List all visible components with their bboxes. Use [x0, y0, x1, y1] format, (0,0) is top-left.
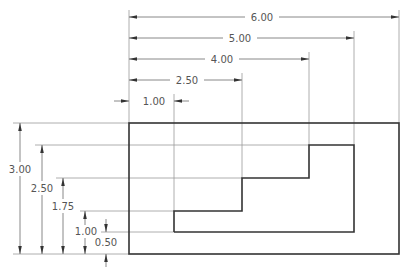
technical-drawing: 6.00 5.00 4.00 2.50 1.00 3.00 2.50 1.75 … — [0, 0, 406, 269]
dim-label-6-00: 6.00 — [251, 12, 273, 23]
dim-label-1-00-v: 1.00 — [75, 226, 97, 237]
dim-label-2-50-v: 2.50 — [31, 183, 53, 194]
horizontal-extension-lines — [129, 10, 399, 211]
dim-label-2-50: 2.50 — [176, 75, 198, 86]
dim-label-3-00: 3.00 — [9, 164, 31, 175]
dim-label-1-75: 1.75 — [52, 201, 74, 212]
outer-rectangle — [129, 123, 399, 254]
horizontal-dimensions: 6.00 5.00 4.00 2.50 1.00 — [114, 10, 399, 107]
dim-label-1-00: 1.00 — [143, 96, 165, 107]
dim-label-0-50: 0.50 — [95, 237, 117, 248]
inner-stepped-profile — [174, 145, 354, 232]
dim-label-5-00: 5.00 — [229, 33, 251, 44]
dim-label-4-00: 4.00 — [211, 54, 233, 65]
